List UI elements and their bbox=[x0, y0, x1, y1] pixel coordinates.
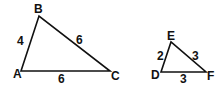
vertex-label-f: F bbox=[207, 69, 214, 83]
side-length-de: 2 bbox=[157, 49, 164, 63]
side-length-ef: 3 bbox=[192, 49, 199, 63]
side-length-ab: 4 bbox=[17, 34, 24, 48]
triangle-def: D E F 2 3 3 bbox=[151, 29, 214, 86]
similar-triangles-diagram: A B C 4 6 6 D E F 2 3 3 bbox=[0, 0, 218, 89]
side-length-df: 3 bbox=[180, 72, 187, 86]
side-length-bc: 6 bbox=[76, 33, 83, 47]
vertex-label-a: A bbox=[13, 67, 22, 81]
triangle-abc-shape bbox=[21, 16, 110, 71]
vertex-label-c: C bbox=[111, 69, 120, 83]
vertex-label-e: E bbox=[167, 29, 175, 43]
triangle-def-shape bbox=[161, 42, 206, 72]
vertex-label-b: B bbox=[34, 2, 43, 16]
side-length-ac: 6 bbox=[58, 72, 65, 86]
vertex-label-d: D bbox=[151, 68, 160, 82]
triangle-abc: A B C 4 6 6 bbox=[13, 2, 120, 86]
